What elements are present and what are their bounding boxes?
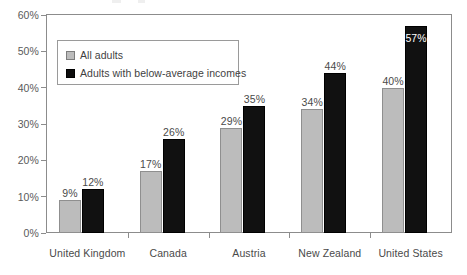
x-axis-tick-mark bbox=[370, 233, 371, 238]
bar-group: 40%57% bbox=[370, 15, 451, 233]
bar-value-label: 57% bbox=[405, 32, 426, 44]
x-axis-tick-mark bbox=[128, 233, 129, 238]
x-axis-category-label: New Zealand bbox=[298, 247, 361, 259]
bar-all-adults: 9% bbox=[59, 200, 81, 233]
bar-value-label: 12% bbox=[82, 176, 103, 188]
bar-below-average-incomes: 57% bbox=[405, 26, 427, 233]
x-axis-category-label: United Kingdom bbox=[49, 247, 125, 259]
bar-chart: 60%50%40%30%20%10%0% 9%12%17%26%29%35%34… bbox=[0, 0, 467, 275]
x-axis-category-label: United States bbox=[378, 247, 442, 259]
bar-all-adults: 40% bbox=[382, 88, 404, 233]
crop-artifact bbox=[112, 0, 121, 3]
bar-value-label: 17% bbox=[140, 158, 161, 170]
y-axis-tick: 50% bbox=[0, 44, 46, 58]
bar-all-adults: 17% bbox=[140, 171, 162, 233]
legend-item-label: Adults with below-average incomes bbox=[80, 67, 246, 79]
x-axis-category-label: Austria bbox=[232, 247, 265, 259]
y-axis-tick: 0% bbox=[0, 226, 46, 240]
x-axis-tick-mark bbox=[289, 233, 290, 238]
bar-value-label: 44% bbox=[325, 60, 346, 72]
bar-below-average-incomes: 44% bbox=[324, 73, 346, 233]
x-axis-category-label: Canada bbox=[149, 247, 186, 259]
bar-below-average-incomes: 26% bbox=[163, 139, 185, 233]
crop-artifact bbox=[138, 0, 145, 3]
bar-group: 34%44% bbox=[289, 15, 370, 233]
y-axis-tick: 20% bbox=[0, 153, 46, 167]
bar-below-average-incomes: 12% bbox=[82, 189, 104, 233]
y-axis-tick: 30% bbox=[0, 117, 46, 131]
gray-square-swatch-icon bbox=[66, 51, 75, 60]
x-axis-labels: United KingdomCanadaAustriaNew ZealandUn… bbox=[46, 247, 452, 267]
x-axis-tick-mark bbox=[209, 233, 210, 238]
x-axis-ticks bbox=[46, 233, 452, 239]
y-axis: 60%50%40%30%20%10%0% bbox=[0, 0, 46, 233]
bar-all-adults: 29% bbox=[220, 128, 242, 233]
bar-all-adults: 34% bbox=[301, 109, 323, 233]
bar-value-label: 40% bbox=[382, 75, 403, 87]
y-axis-tick: 40% bbox=[0, 81, 46, 95]
bar-value-label: 9% bbox=[62, 187, 77, 199]
bar-below-average-incomes: 35% bbox=[243, 106, 265, 233]
y-axis-tick: 10% bbox=[0, 190, 46, 204]
black-square-swatch-icon bbox=[66, 69, 75, 78]
chart-legend: All adults Adults with below-average inc… bbox=[57, 40, 239, 85]
bar-value-label: 35% bbox=[244, 93, 265, 105]
bar-value-label: 34% bbox=[302, 96, 323, 108]
legend-item-all-adults: All adults bbox=[66, 47, 230, 63]
y-axis-tick: 60% bbox=[0, 8, 46, 22]
bar-value-label: 26% bbox=[163, 126, 184, 138]
legend-item-label: All adults bbox=[80, 49, 123, 61]
legend-item-below-average-incomes: Adults with below-average incomes bbox=[66, 65, 230, 81]
bar-value-label: 29% bbox=[221, 115, 242, 127]
